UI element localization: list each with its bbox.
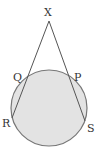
label-r: R <box>2 117 11 130</box>
label-p: P <box>74 71 82 84</box>
label-q: Q <box>13 71 22 84</box>
label-x: X <box>44 6 52 19</box>
label-s: S <box>87 122 95 135</box>
secant-diagram: X Q P R S <box>0 0 100 152</box>
